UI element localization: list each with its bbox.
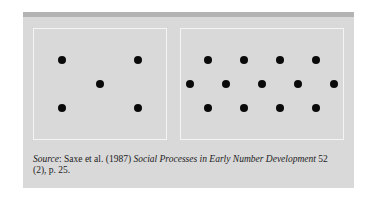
right-box-dot xyxy=(240,56,248,64)
left-box-dot xyxy=(134,104,142,112)
right-box-dot xyxy=(294,80,302,88)
left-box-dot xyxy=(58,104,66,112)
caption-source-label: Source xyxy=(33,154,59,164)
left-box-dot xyxy=(96,80,104,88)
right-box-dot xyxy=(222,80,230,88)
right-box-dot xyxy=(330,80,338,88)
right-box-dot xyxy=(204,104,212,112)
caption-title: Social Processes in Early Number Develop… xyxy=(133,154,315,164)
right-box-dot xyxy=(258,80,266,88)
right-box-dot xyxy=(240,104,248,112)
right-box-dot xyxy=(186,80,194,88)
panel-top-bar xyxy=(23,12,354,17)
source-caption: Source: Saxe et al. (1987) Social Proces… xyxy=(33,154,343,176)
right-box-dot xyxy=(312,104,320,112)
right-box-dot xyxy=(276,56,284,64)
left-box-dot xyxy=(134,56,142,64)
right-box-dot xyxy=(204,56,212,64)
caption-authors: : Saxe et al. (1987) xyxy=(59,154,133,164)
left-box-dot xyxy=(58,56,66,64)
right-box-dot xyxy=(276,104,284,112)
right-box-dot xyxy=(312,56,320,64)
